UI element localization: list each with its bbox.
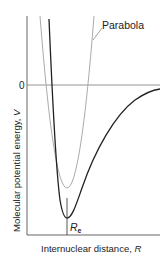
y-axis-label-var: V: [11, 108, 22, 116]
y-zero-tick-label: 0: [19, 80, 25, 91]
x-axis-label: Internuclear distance, R: [41, 243, 141, 254]
potential-energy-curve: [49, 19, 160, 218]
parabola-curve: [40, 16, 94, 188]
re-label: Re: [70, 221, 82, 234]
y-axis-label-text: Molecular potential energy,: [11, 116, 22, 232]
parabola-label: Parabola: [102, 19, 144, 31]
x-axis-label-var: R: [134, 243, 141, 254]
re-label-sub: e: [78, 227, 82, 234]
potential-energy-chart: Parabola 0 Re Internuclear distance, R M…: [0, 0, 165, 258]
parabola-callout-line: [93, 28, 102, 40]
y-axis-label: Molecular potential energy, V: [11, 108, 22, 232]
x-axis-label-text: Internuclear distance,: [41, 243, 134, 254]
